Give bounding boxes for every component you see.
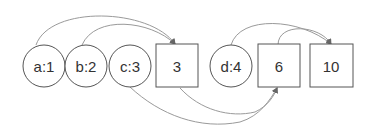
node-c: c:3 (109, 45, 151, 87)
node-6-label: 6 (275, 58, 283, 75)
edge-b-to-3 (82, 24, 175, 45)
node-3-label: 3 (173, 58, 181, 75)
node-c-label: c:3 (120, 58, 140, 75)
node-d-label: d:4 (221, 58, 242, 75)
node-10: 10 (310, 44, 353, 87)
node-d: d:4 (210, 45, 252, 87)
node-a-label: a:1 (34, 58, 55, 75)
edge-3-to-6 (180, 88, 277, 114)
node-b-label: b:2 (76, 58, 97, 75)
edge-6-to-10 (278, 29, 331, 45)
node-3: 3 (156, 44, 198, 87)
node-b: b:2 (65, 45, 107, 87)
node-6: 6 (258, 44, 300, 87)
node-a: a:1 (23, 45, 65, 87)
edge-d-to-10 (231, 23, 331, 45)
node-10-label: 10 (323, 58, 340, 75)
diagram-canvas: a:1 b:2 c:3 3 d:4 6 10 (0, 0, 368, 134)
